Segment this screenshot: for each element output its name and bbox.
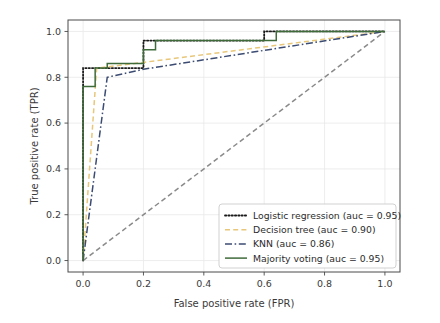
legend: Logistic regression (auc = 0.95)Decision… <box>219 204 401 268</box>
y-tick-label: 0.2 <box>46 209 61 220</box>
x-tick-label: 1.0 <box>377 278 392 289</box>
y-axis-ticks: 0.00.20.40.60.81.0 <box>46 26 68 266</box>
y-tick-label: 1.0 <box>46 26 61 37</box>
legend-label-logistic-regression: Logistic regression (auc = 0.95) <box>253 210 401 221</box>
x-tick-label: 0.8 <box>317 278 332 289</box>
y-axis-label: True positive rate (TPR) <box>29 87 40 205</box>
y-tick-label: 0.4 <box>46 163 61 174</box>
legend-label-majority-voting: Majority voting (auc = 0.95) <box>253 253 384 264</box>
legend-label-knn: KNN (auc = 0.86) <box>253 238 334 249</box>
x-axis-label: False positive rate (FPR) <box>174 298 295 309</box>
y-tick-label: 0.0 <box>46 255 61 266</box>
roc-plot: 0.00.20.40.60.81.0 0.00.20.40.60.81.0 Fa… <box>0 0 440 323</box>
x-tick-label: 0.0 <box>76 278 91 289</box>
roc-curve-figure: 0.00.20.40.60.81.0 0.00.20.40.60.81.0 Fa… <box>0 0 440 323</box>
x-tick-label: 0.2 <box>136 278 151 289</box>
y-tick-label: 0.6 <box>46 117 61 128</box>
x-tick-label: 0.6 <box>257 278 272 289</box>
x-axis-ticks: 0.00.20.40.60.81.0 <box>76 272 393 289</box>
y-tick-label: 0.8 <box>46 72 61 83</box>
x-tick-label: 0.4 <box>196 278 211 289</box>
legend-label-decision-tree: Decision tree (auc = 0.90) <box>253 224 376 235</box>
